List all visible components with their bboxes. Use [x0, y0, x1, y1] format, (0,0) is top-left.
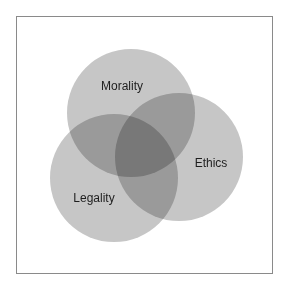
legality-circle	[50, 114, 178, 242]
morality-label: Morality	[101, 79, 143, 93]
venn-diagram	[0, 0, 287, 287]
legality-label: Legality	[73, 191, 114, 205]
ethics-label: Ethics	[195, 156, 228, 170]
